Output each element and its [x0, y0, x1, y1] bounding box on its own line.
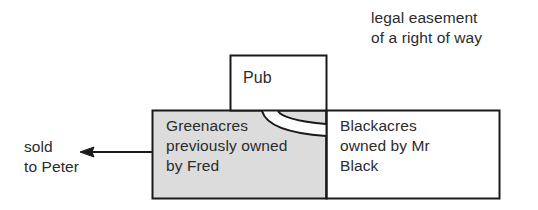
easement-annotation: legal easement of a right of way: [371, 8, 482, 48]
blackacres-parcel-label: Blackacres owned by Mr Black: [340, 116, 430, 176]
greenacres-parcel-label: Greenacres previously owned by Fred: [166, 116, 287, 176]
sale-annotation: sold to Peter: [24, 137, 79, 177]
sale-arrow-head: [80, 147, 94, 157]
pub-parcel-label: Pub: [243, 68, 272, 88]
diagram-canvas: legal easement of a right of way Pub Gre…: [0, 0, 538, 210]
